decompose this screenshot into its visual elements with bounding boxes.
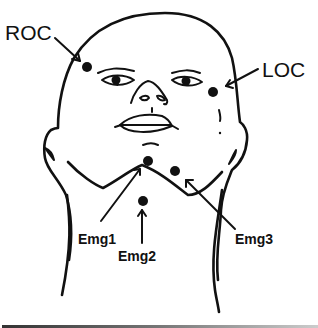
mouth-lower [120,125,172,132]
electrode-roc [82,62,92,72]
electrode-emg3 [170,166,180,176]
electrode-loc [208,87,218,97]
left-eyebrow [172,70,200,73]
nostril-right [140,96,149,101]
label-loc: LOC [262,58,305,81]
electrode-emg1 [143,156,153,166]
chin-mark [143,144,158,146]
mouth-corner-left [115,125,121,127]
diagram-canvas: ROC LOC Emg1 Emg2 Emg3 [0,0,318,328]
label-emg2: Emg2 [118,248,156,264]
arrow-loc [226,69,258,88]
jaw-line [68,162,222,195]
arrow-emg2 [138,210,146,243]
right-eyebrow [98,69,134,73]
label-emg1: Emg1 [78,231,116,247]
arrow-roc [55,38,80,61]
face-diagram: ROC LOC Emg1 Emg2 Emg3 [0,0,318,328]
neck-left [62,195,69,295]
arrow-emg3 [186,180,235,229]
head-outline [44,13,247,280]
right-pupil [112,76,121,85]
cheek-mark [219,110,220,121]
label-emg3: Emg3 [235,231,273,247]
left-pupil [182,77,191,86]
label-roc: ROC [5,21,52,44]
cheek-dot [219,132,221,134]
electrode-emg2 [138,196,148,206]
right-ear-inner [229,150,236,164]
